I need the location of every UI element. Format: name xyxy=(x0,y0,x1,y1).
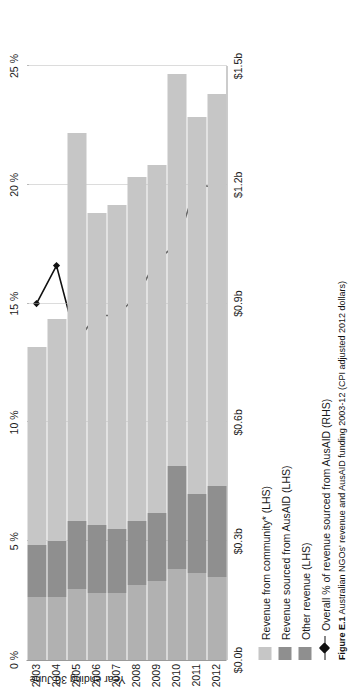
value-tick-0: $0.0b xyxy=(231,638,243,682)
bar-segment xyxy=(207,94,226,486)
category-axis-line xyxy=(26,660,226,661)
percent-tick-3: 15 % xyxy=(7,282,19,326)
percent-tick-4: 20 % xyxy=(7,163,19,207)
rotated-figure-wrapper: 2003200420052006200720082009201020112012… xyxy=(0,0,351,696)
category-label-2012: 2012 xyxy=(209,664,221,696)
figure-e1: 2003200420052006200720082009201020112012… xyxy=(0,0,351,696)
percent-tick-0: 0 % xyxy=(7,638,19,682)
bar-segment xyxy=(47,541,66,596)
legend-label-community: Revenue from community* (LHS) xyxy=(259,486,271,640)
value-tick-3: $0.9b xyxy=(231,282,243,326)
bar-segment xyxy=(127,521,146,584)
category-label-2008: 2008 xyxy=(129,664,141,696)
bar-segment xyxy=(27,347,46,545)
legend-item-other[interactable]: Other revenue (LHS) xyxy=(298,399,311,660)
value-tick-5: $1.5b xyxy=(231,44,243,88)
caption-label: Figure E.1 xyxy=(336,616,346,660)
line-marker-icon xyxy=(318,636,331,660)
bar-segment xyxy=(167,466,186,569)
bar-segment xyxy=(87,213,106,526)
percent-tick-5: 25 % xyxy=(7,44,19,88)
percent-tick-2: 10 % xyxy=(7,400,19,444)
bar-group xyxy=(167,66,186,660)
percent-tick-1: 5 % xyxy=(7,519,19,563)
bar-segment xyxy=(187,573,206,660)
category-label-2010: 2010 xyxy=(169,664,181,696)
bar-segment xyxy=(167,569,186,660)
plot-area xyxy=(26,66,226,660)
bar-segment xyxy=(87,593,106,660)
bar-segment xyxy=(207,486,226,577)
value-tick-2: $0.6b xyxy=(231,400,243,444)
category-label-2009: 2009 xyxy=(149,664,161,696)
bar-segment xyxy=(47,597,66,660)
bar-group xyxy=(107,66,126,660)
bar-segment xyxy=(187,494,206,573)
bar-group xyxy=(47,66,66,660)
bar-segment xyxy=(67,521,86,588)
legend-label-other: Other revenue (LHS) xyxy=(299,543,311,640)
bar-group xyxy=(67,66,86,660)
bar-segment xyxy=(27,545,46,596)
bar-segment xyxy=(147,165,166,513)
caption-text: Australian NGOs' revenue and AusAID fund… xyxy=(336,281,346,614)
category-label-2011: 2011 xyxy=(189,664,201,696)
legend-label-pct: Overall % of revenue sourced from AusAID… xyxy=(319,399,331,631)
legend-item-pct[interactable]: Overall % of revenue sourced from AusAID… xyxy=(318,399,331,660)
bar-segment xyxy=(67,589,86,660)
legend-swatch-community xyxy=(258,647,271,660)
legend-swatch-ausaid xyxy=(278,647,291,660)
bar-segment xyxy=(127,177,146,522)
bar-segment xyxy=(207,577,226,660)
bar-segment xyxy=(147,581,166,660)
bar-group xyxy=(187,66,206,660)
legend-label-ausaid: Revenue sourced from AusAID (LHS) xyxy=(279,466,291,641)
bar-group xyxy=(27,66,46,660)
bar-segment xyxy=(107,529,126,592)
legend: Revenue from community* (LHS)Revenue sou… xyxy=(258,399,338,660)
value-tick-1: $0.3b xyxy=(231,519,243,563)
bar-segment xyxy=(67,133,86,521)
bar-segment xyxy=(167,74,186,466)
bar-segment xyxy=(47,319,66,541)
bar-group xyxy=(87,66,106,660)
bar-group xyxy=(147,66,166,660)
bar-segment xyxy=(127,585,146,660)
legend-item-community[interactable]: Revenue from community* (LHS) xyxy=(258,399,271,660)
bar-segment xyxy=(187,118,206,494)
figure-caption: Figure E.1 Australian NGOs' revenue and … xyxy=(336,281,346,660)
bar-segment xyxy=(107,205,126,530)
legend-item-ausaid[interactable]: Revenue sourced from AusAID (LHS) xyxy=(278,399,291,660)
bar-group xyxy=(127,66,146,660)
bar-segment xyxy=(27,597,46,660)
legend-swatch-other xyxy=(298,647,311,660)
bar-group xyxy=(207,66,226,660)
value-tick-4: $1.2b xyxy=(231,163,243,207)
bar-segment xyxy=(147,514,166,581)
bar-segment xyxy=(87,525,106,592)
bar-segment xyxy=(107,593,126,660)
